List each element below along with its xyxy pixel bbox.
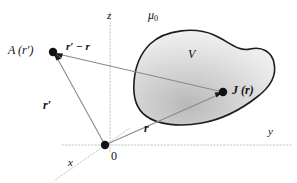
- separation-vector-label: r′ − r: [66, 41, 90, 52]
- x-axis-label-text: x: [68, 156, 73, 168]
- current-density-label: J (r): [232, 84, 254, 96]
- y-axis-label-text: y: [268, 125, 273, 137]
- separation-vector-label-text: r′ − r: [66, 40, 90, 52]
- volume-label: V: [188, 48, 195, 60]
- vector-r-prime-line: [56, 56, 105, 145]
- vector-potential-diagram: A (r′) r′ − r r′ μ0 z y x 0 V J (r) r: [0, 0, 297, 183]
- source-point-dot: [219, 88, 227, 96]
- position-vector-label: r: [144, 122, 149, 134]
- current-density-label-text: J (r): [232, 83, 254, 97]
- z-axis-label: z: [107, 10, 111, 21]
- z-axis-label-text: z: [107, 9, 111, 21]
- permeability-subscript: 0: [154, 14, 158, 23]
- y-axis-label: y: [268, 126, 273, 137]
- field-point-label: A (r′): [8, 44, 33, 56]
- r-prime-vector-label-text: r′: [43, 98, 51, 112]
- origin-label: 0: [111, 150, 117, 162]
- origin-dot: [101, 141, 109, 149]
- x-axis: [55, 128, 130, 180]
- volume-blob: [134, 30, 275, 125]
- position-vector-label-text: r: [144, 121, 149, 135]
- field-point-dot: [49, 48, 57, 56]
- origin-label-text: 0: [111, 149, 117, 163]
- field-point-label-text: A (r′): [8, 43, 33, 57]
- r-prime-vector-label: r′: [43, 99, 51, 111]
- x-axis-label: x: [68, 157, 73, 168]
- permeability-label: μ0: [148, 9, 158, 23]
- volume-label-text: V: [188, 47, 195, 61]
